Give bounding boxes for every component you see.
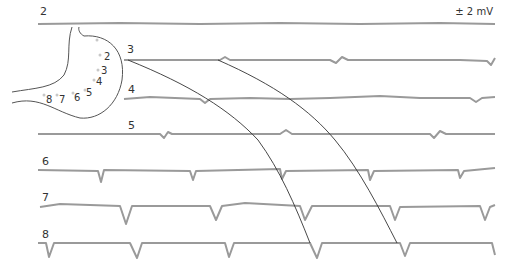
trace-label-5: 5 — [128, 120, 135, 131]
electrode-label-3: 3 — [101, 66, 107, 76]
trace-label-3: 3 — [127, 44, 134, 55]
trace-6 — [38, 168, 495, 182]
trace-5 — [38, 130, 495, 138]
electrode-label-2: 2 — [104, 52, 110, 62]
trace-4 — [124, 96, 495, 103]
slow-wave-diagram — [0, 0, 507, 270]
scale-label: ± 2 mV — [455, 6, 493, 17]
trace-2 — [38, 23, 495, 24]
electrode-label-6: 6 — [74, 93, 80, 103]
electrode-label-8: 8 — [46, 95, 52, 105]
stomach-outline-outer — [12, 27, 72, 92]
trace-label-2: 2 — [40, 6, 47, 17]
trace-label-4: 4 — [128, 84, 135, 95]
propagation-line-1 — [128, 60, 310, 243]
trace-label-8: 8 — [42, 229, 49, 240]
trace-label-6: 6 — [42, 156, 49, 167]
trace-3 — [124, 57, 495, 65]
trace-label-7: 7 — [42, 192, 49, 203]
trace-8 — [38, 243, 495, 258]
electrode-label-5: 5 — [86, 88, 92, 98]
trace-7 — [40, 203, 495, 224]
electrode-label-4: 4 — [96, 77, 102, 87]
electrode-label-7: 7 — [59, 95, 65, 105]
